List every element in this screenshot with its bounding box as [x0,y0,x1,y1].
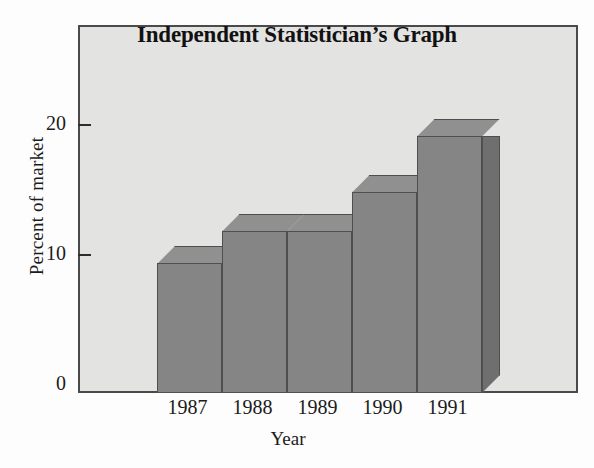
bars-layer [80,27,580,395]
bar-front-face [222,231,287,394]
x-tick-label-1988: 1988 [218,396,288,419]
bar-side-face [482,136,500,393]
y-tick-mark-10 [78,254,91,256]
x-tick-label-1987: 1987 [153,396,223,419]
bar-front-face [157,263,222,393]
x-tick-label-1991: 1991 [413,396,483,419]
y-tick-label-20: 20 [24,112,66,135]
bar-top-face [417,119,500,137]
y-axis-title: Percent of market [26,106,48,306]
y-tick-mark-20 [78,124,91,126]
x-tick-label-1989: 1989 [283,396,353,419]
chart-title: Independent Statistician’s Graph [0,22,594,48]
y-tick-label-0: 0 [24,372,66,395]
plot-area [78,25,578,393]
x-axis-title: Year [78,428,498,450]
x-tick-label-1990: 1990 [348,396,418,419]
bar-front-face [417,136,482,393]
y-tick-label-10: 10 [24,242,66,265]
bar-front-face [287,231,352,394]
bar-1991 [417,118,500,393]
chart-figure: Independent Statistician’s Graph Percent… [0,0,594,468]
bar-front-face [352,192,417,394]
